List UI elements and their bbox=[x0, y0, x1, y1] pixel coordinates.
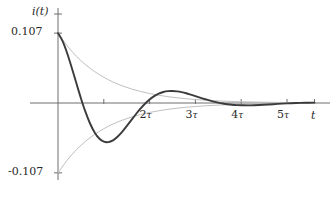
y-tick-label-negative: -0.107 bbox=[8, 166, 43, 177]
x-tick-label-5tau: 5τ bbox=[277, 109, 289, 120]
x-tick-label-3tau: 3τ bbox=[185, 109, 197, 120]
curve-0 bbox=[58, 33, 314, 142]
x-axis-label: t bbox=[311, 110, 315, 121]
x-tick-label-2tau: 2τ bbox=[140, 109, 152, 120]
y-tick-label-positive: 0.107 bbox=[11, 26, 43, 37]
y-axis-label: i(t) bbox=[32, 6, 49, 17]
axes-group bbox=[30, 8, 330, 180]
plot-canvas bbox=[0, 0, 336, 198]
x-tick-label-4tau: 4τ bbox=[231, 109, 243, 120]
current-response-plot: i(t) 0.107 -0.107 t 2τ3τ4τ5τ bbox=[0, 0, 336, 198]
